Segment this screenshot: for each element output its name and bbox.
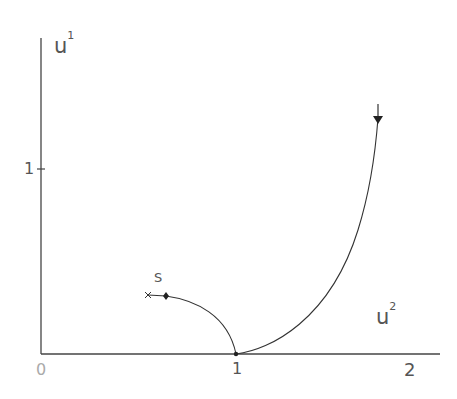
- trajectory-curve: [148, 118, 378, 354]
- chart-plot: [0, 0, 457, 399]
- arrow-down-icon: [373, 116, 383, 124]
- x-axis-label: u2: [376, 305, 396, 329]
- tick-label-x2: 2: [404, 359, 415, 380]
- fixed-point-marker: [234, 352, 238, 356]
- tick-label-x0: 0: [36, 360, 46, 379]
- y-axis-label: u1: [54, 34, 74, 58]
- tick-label-x1: 1: [232, 359, 242, 378]
- tick-label-y1: 1: [24, 159, 34, 178]
- diamond-marker: [163, 292, 169, 300]
- point-s-label: S: [154, 270, 162, 285]
